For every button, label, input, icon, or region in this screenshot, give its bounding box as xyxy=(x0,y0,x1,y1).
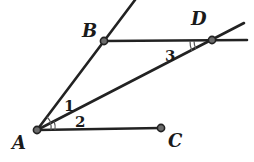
label-b: B xyxy=(81,20,97,41)
label-a: A xyxy=(10,132,26,153)
point-d-dot xyxy=(208,36,215,43)
point-a-dot xyxy=(33,126,40,133)
label-angle-3: 3 xyxy=(165,47,175,65)
line-bd xyxy=(104,40,247,41)
diagram-canvas: B D A C 1 2 3 xyxy=(0,0,254,162)
point-c-dot xyxy=(157,124,164,131)
geometry-diagram: B D A C 1 2 3 xyxy=(0,0,254,162)
label-c: C xyxy=(168,130,183,151)
label-d: D xyxy=(190,8,207,29)
label-angle-1: 1 xyxy=(64,97,74,115)
label-angle-2: 2 xyxy=(75,113,85,131)
point-b-dot xyxy=(100,37,107,44)
